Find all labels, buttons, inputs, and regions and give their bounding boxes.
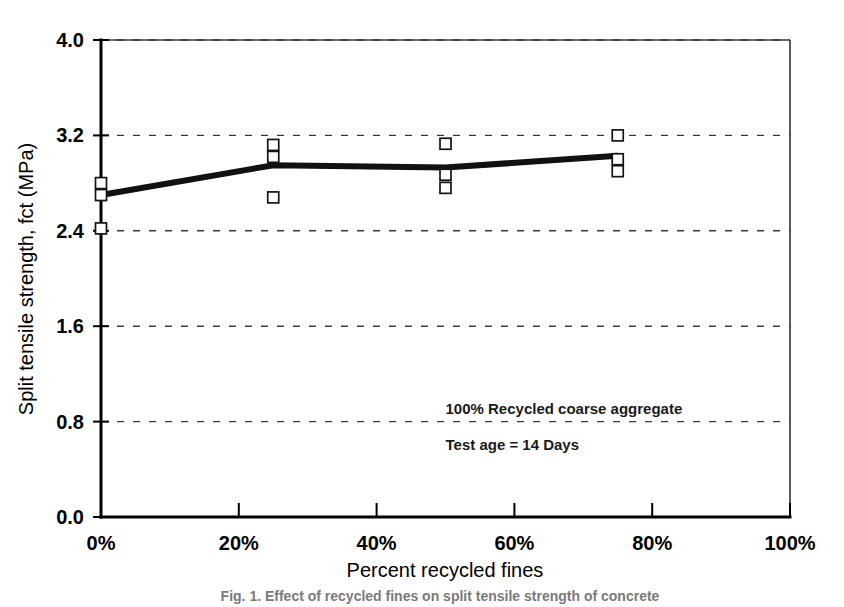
figure-container: 0.00.81.62.43.24.0 0%20%40%60%80%100% 10… [0,0,844,607]
mean-trend-line [101,156,618,195]
x-tick-label: 40% [357,532,397,554]
x-axis-title: Percent recycled fines [347,559,544,581]
data-point-marker [96,223,107,234]
data-point-marker [440,182,451,193]
x-axis-ticks [101,503,790,517]
data-point-marker [268,151,279,162]
y-tick-label: 0.0 [56,506,84,528]
y-tick-label: 4.0 [56,29,84,51]
data-point-marker [612,154,623,165]
annotation-test-age: Test age = 14 Days [446,436,580,453]
y-tick-label: 2.4 [56,220,85,242]
data-point-marker [612,130,623,141]
figure-caption: Fig. 1. Effect of recycled fines on spli… [221,588,660,604]
data-point-marker [440,138,451,149]
y-axis-tick-labels: 0.00.81.62.43.24.0 [56,29,85,528]
gridlines [101,40,790,422]
trend-line-series [101,156,618,195]
data-point-marker [268,192,279,203]
y-tick-label: 1.6 [56,315,84,337]
annotation-recycled-aggregate: 100% Recycled coarse aggregate [446,400,683,417]
x-tick-label: 0% [87,532,116,554]
data-point-marker [612,166,623,177]
y-tick-label: 3.2 [56,124,84,146]
data-point-marker [96,178,107,189]
y-axis-title: Split tensile strength, fct (MPa) [15,143,37,415]
x-tick-label: 20% [219,532,259,554]
data-point-marker [96,190,107,201]
data-point-marker [268,139,279,150]
x-axis-tick-labels: 0%20%40%60%80%100% [87,532,816,554]
plot-annotations: 100% Recycled coarse aggregate Test age … [446,400,683,453]
data-point-marker [440,169,451,180]
x-tick-label: 100% [764,532,815,554]
x-tick-label: 80% [632,532,672,554]
x-tick-label: 60% [494,532,534,554]
chart-canvas: 0.00.81.62.43.24.0 0%20%40%60%80%100% 10… [0,0,844,607]
y-tick-label: 0.8 [56,411,84,433]
